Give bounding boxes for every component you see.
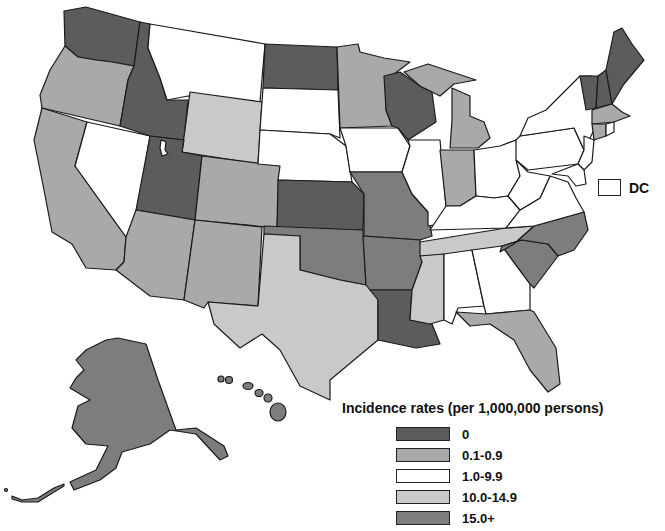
state-mi[interactable] <box>450 88 490 148</box>
dc-label: DC <box>629 180 649 196</box>
legend: Incidence rates (per 1,000,000 persons) … <box>342 400 662 416</box>
state-ak-island[interactable] <box>5 489 8 492</box>
state-mt[interactable] <box>148 24 265 102</box>
state-ia[interactable] <box>340 128 410 172</box>
state-ak-aleutians[interactable] <box>12 484 64 502</box>
legend-swatch <box>396 469 450 483</box>
us-map <box>0 0 665 531</box>
legend-label: 0 <box>462 427 469 442</box>
legend-label: 15.0+ <box>462 511 495 526</box>
state-ri[interactable] <box>606 122 614 136</box>
state-nm[interactable] <box>184 220 262 308</box>
state-hi-molokai[interactable] <box>243 383 253 390</box>
dc-swatch[interactable] <box>598 179 621 196</box>
state-hi-lanai[interactable] <box>264 394 272 402</box>
legend-item-0: 0 <box>396 425 469 443</box>
state-hi-big-island[interactable] <box>270 403 286 421</box>
dc-indicator: DC <box>598 179 649 196</box>
legend-swatch <box>396 427 450 441</box>
legend-label: 1.0-9.9 <box>462 469 502 484</box>
legend-label: 10.0-14.9 <box>462 490 517 505</box>
state-co[interactable] <box>195 156 280 228</box>
state-me[interactable] <box>606 28 644 104</box>
state-in[interactable] <box>440 150 476 206</box>
legend-item-2: 1.0-9.9 <box>396 467 502 485</box>
legend-title: Incidence rates (per 1,000,000 persons) <box>342 400 662 416</box>
state-wy[interactable] <box>182 92 262 164</box>
state-hi-maui[interactable] <box>255 390 263 397</box>
state-nd[interactable] <box>263 44 338 90</box>
legend-label: 0.1-0.9 <box>462 448 502 463</box>
legend-item-1: 0.1-0.9 <box>396 446 502 464</box>
legend-item-3: 10.0-14.9 <box>396 488 517 506</box>
state-ct[interactable] <box>592 124 606 140</box>
state-ks[interactable] <box>277 180 364 230</box>
state-ar[interactable] <box>363 236 422 290</box>
state-hi-oahu[interactable] <box>226 377 233 384</box>
legend-swatch <box>396 490 450 504</box>
legend-item-4: 15.0+ <box>396 509 495 527</box>
legend-swatch <box>396 511 450 525</box>
legend-swatch <box>396 448 450 462</box>
state-hi-kauai[interactable] <box>218 376 224 382</box>
state-fl[interactable] <box>456 310 560 392</box>
state-ak[interactable] <box>70 338 228 490</box>
